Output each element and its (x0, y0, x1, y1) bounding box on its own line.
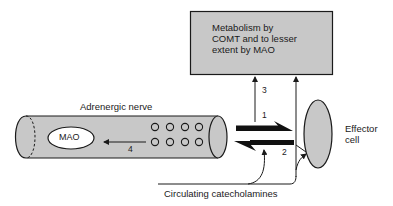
pathway-number-2: 2 (282, 148, 287, 157)
metabolism-line-1: Metabolism by (212, 22, 297, 33)
metabolism-line-3: extent by MAO (212, 44, 297, 55)
effector-line-1: Effector (345, 123, 378, 134)
metabolism-text: Metabolism by COMT and to lesser extent … (212, 22, 297, 55)
diagram-canvas (0, 0, 393, 206)
metabolism-line-2: COMT and to lesser (212, 33, 297, 44)
pathway-number-4: 4 (128, 145, 133, 154)
nerve-label: Adrenergic nerve (80, 101, 152, 112)
effector-line-2: cell (345, 134, 378, 145)
pathway-number-1: 1 (262, 111, 267, 120)
curve-circulation-to-effector (296, 154, 306, 170)
pathway-number-3: 3 (262, 86, 267, 95)
curve-circulation-to-uptake (248, 150, 264, 184)
nerve-terminal-end (209, 116, 227, 158)
circulating-label: Circulating catecholamines (164, 188, 278, 199)
effector-label: Effector cell (345, 123, 378, 145)
effector-cell (304, 100, 332, 168)
mao-label: MAO (59, 132, 80, 143)
